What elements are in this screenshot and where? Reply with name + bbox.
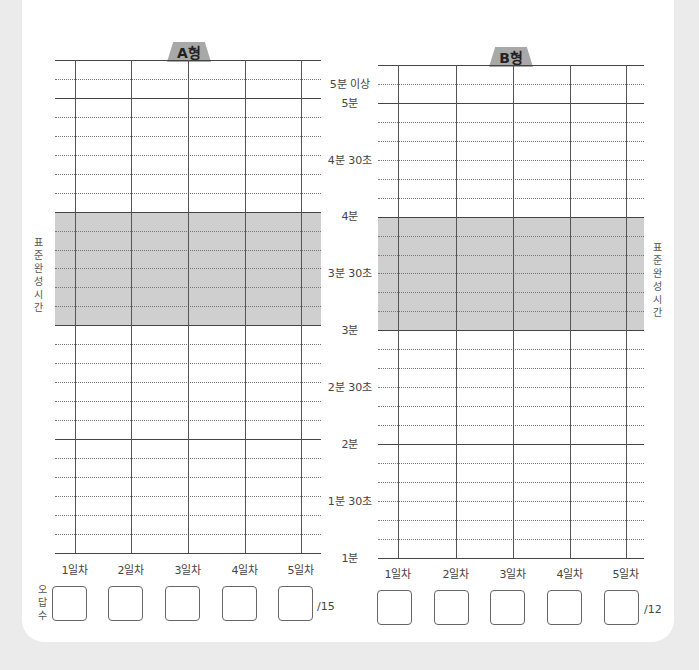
chartB-day-column-line: [626, 65, 627, 558]
chartB-gridline: [378, 141, 644, 142]
chartA-day-label: 4일차: [232, 561, 259, 577]
chartA-day-column-line: [245, 60, 246, 553]
y-axis-label: 3분 30초: [328, 264, 373, 280]
chartB-day-label: 3일차: [500, 565, 527, 581]
chartB-gridline: [378, 103, 644, 104]
chart-a-tab: A형: [167, 42, 211, 62]
chartB-day-column-line: [570, 65, 571, 558]
y-axis-label: 4분 30초: [328, 151, 373, 167]
chartA-day-column-line: [188, 60, 189, 553]
chartB-gridline: [378, 520, 644, 521]
chartA-wrong-answer-box-day-4[interactable]: [222, 586, 257, 621]
chartB-wrong-answer-box-day-1[interactable]: [377, 590, 412, 625]
chartA-wrong-answer-box-day-2[interactable]: [108, 586, 143, 621]
chartB-gridline: [378, 292, 644, 293]
chartB-wrong-answer-box-day-4[interactable]: [547, 590, 582, 625]
chartB-gridline: [378, 425, 644, 426]
chartB-gridline: [378, 444, 644, 445]
chartB-gridline: [378, 558, 644, 559]
chartA-day-column-line: [301, 60, 302, 553]
chartB-gridline: [378, 349, 644, 350]
chartB-gridline: [378, 368, 644, 369]
chartB-gridline: [378, 463, 644, 464]
chartB-day-column-line: [456, 65, 457, 558]
y-axis-label: 5분: [342, 94, 359, 110]
chartB-day-column-line: [398, 65, 399, 558]
chartB-gridline: [378, 198, 644, 199]
chartB-gridline: [378, 84, 644, 85]
chartB-gridline: [378, 179, 644, 180]
chartB-gridline: [378, 255, 644, 256]
chart-b-total: /12: [644, 603, 662, 616]
wrong-answers-label: 오답수: [36, 583, 48, 622]
chartA-wrong-answer-box-day-3[interactable]: [165, 586, 200, 621]
chartB-day-label: 1일차: [385, 565, 412, 581]
chartA-day-label: 1일차: [62, 561, 89, 577]
chartB-gridline: [378, 406, 644, 407]
y-axis-label: 3분: [342, 321, 359, 337]
chart-a-total: /15: [317, 600, 335, 613]
chartB-gridline: [378, 330, 644, 331]
chartB-gridline: [378, 501, 644, 502]
chartB-gridline: [378, 311, 644, 312]
y-axis-label: 4분: [342, 207, 359, 223]
chartB-gridline: [378, 387, 644, 388]
y-axis-label: 2분: [342, 435, 359, 451]
chartB-wrong-answer-box-day-3[interactable]: [490, 590, 525, 625]
y-axis-label: 1분: [342, 549, 359, 565]
chartB-day-column-line: [513, 65, 514, 558]
chartB-day-label: 5일차: [613, 565, 640, 581]
chartB-day-label: 4일차: [557, 565, 584, 581]
chartB-gridline: [378, 65, 644, 66]
y-axis-label: 1분 30초: [328, 492, 373, 508]
y-axis-label: 2분 30초: [328, 378, 373, 394]
chartA-day-label: 3일차: [175, 561, 202, 577]
chartB-gridline: [378, 482, 644, 483]
chartB-day-label: 2일차: [443, 565, 470, 581]
chartB-gridline: [378, 160, 644, 161]
chartA-day-column-line: [75, 60, 76, 553]
chartA-day-label: 5일차: [288, 561, 315, 577]
chartB-gridline: [378, 273, 644, 274]
chartB-wrong-answer-box-day-5[interactable]: [604, 590, 639, 625]
chart-b-tab: B형: [489, 47, 533, 67]
chartB-gridline: [378, 217, 644, 218]
chartA-gridline: [55, 553, 321, 554]
chartB-wrong-answer-box-day-2[interactable]: [434, 590, 469, 625]
chartB-gridline: [378, 122, 644, 123]
chartA-wrong-answer-box-day-1[interactable]: [52, 586, 87, 621]
chartB-gridline: [378, 539, 644, 540]
y-axis-label: 5분 이상: [330, 75, 371, 91]
chartA-day-label: 2일차: [118, 561, 145, 577]
chartA-day-column-line: [131, 60, 132, 553]
chartA-wrong-answer-box-day-5[interactable]: [278, 586, 313, 621]
chart-a-band-label: 표준완성시간: [32, 236, 44, 314]
chart-b-band-label: 표준완성시간: [651, 241, 663, 319]
chartB-gridline: [378, 236, 644, 237]
